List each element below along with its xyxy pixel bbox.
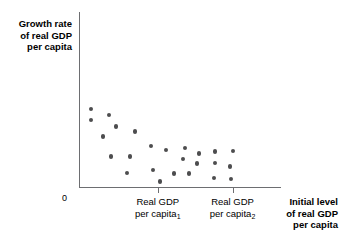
x-axis-tick-label-subscript: 1 xyxy=(177,213,181,220)
x-axis-tick xyxy=(233,188,234,193)
x-axis-title-line-3: per capita xyxy=(256,219,338,231)
scatter-point xyxy=(181,157,185,161)
scatter-point xyxy=(89,118,93,122)
x-axis-tick xyxy=(158,188,159,193)
scatter-point xyxy=(187,171,191,175)
scatter-point xyxy=(151,168,155,172)
scatter-point xyxy=(213,161,217,165)
scatter-point xyxy=(101,134,105,138)
scatter-point xyxy=(183,146,187,150)
scatter-point xyxy=(231,149,235,153)
scatter-point xyxy=(149,144,153,148)
scatter-point xyxy=(109,154,113,158)
scatter-point xyxy=(107,113,111,117)
scatter-point xyxy=(114,124,118,128)
scatter-point xyxy=(195,161,199,165)
scatter-point xyxy=(164,148,168,152)
scatter-point xyxy=(213,149,217,153)
scatter-point xyxy=(228,164,232,168)
scatter-point xyxy=(128,154,132,158)
scatter-point xyxy=(125,171,129,175)
scatter-point xyxy=(212,176,216,180)
x-axis-tick-label-line-1: Real GDP xyxy=(188,196,278,208)
chart-canvas: Growth rate of real GDP per capita 0 Ini… xyxy=(0,0,342,250)
origin-label: 0 xyxy=(62,193,67,203)
scatter-point xyxy=(89,107,93,111)
scatter-point xyxy=(158,179,162,183)
x-axis-tick-label-subscript: 2 xyxy=(251,213,255,220)
x-axis-tick-label-line-2: per capita2 xyxy=(188,208,278,221)
scatter-point xyxy=(197,151,201,155)
x-axis-tick-label: Real GDPper capita2 xyxy=(188,196,278,220)
scatter-point xyxy=(133,129,137,133)
scatter-point xyxy=(229,177,233,181)
scatter-point xyxy=(172,171,176,175)
